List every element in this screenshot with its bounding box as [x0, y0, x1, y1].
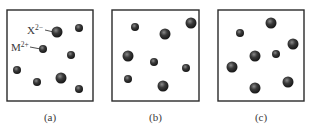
- large-ion: [250, 83, 261, 94]
- large-ion: [266, 18, 277, 29]
- small-ion: [124, 75, 132, 83]
- large-ion: [123, 51, 134, 62]
- panel-caption: (a): [44, 111, 57, 124]
- large-ion: [227, 62, 238, 73]
- panel-caption: (b): [149, 111, 162, 124]
- panel-caption: (c): [255, 111, 268, 124]
- large-ion: [250, 51, 261, 62]
- large-ion: [283, 77, 294, 88]
- small-ion: [67, 51, 75, 59]
- small-ion: [13, 66, 21, 74]
- small-ion: [272, 50, 280, 58]
- large-ion: [160, 29, 171, 40]
- small-ion: [150, 58, 158, 66]
- large-ion: [52, 27, 63, 38]
- large-ion: [186, 18, 197, 29]
- small-ion: [75, 85, 83, 93]
- small-ion: [131, 23, 139, 31]
- large-ion: [158, 81, 169, 92]
- small-ion: [182, 64, 190, 72]
- large-ion: [288, 39, 299, 50]
- panel-c: (c): [218, 10, 304, 124]
- small-ion: [39, 45, 47, 53]
- ionic-solution-diagram: X2−M2+(a)(b)(c): [0, 0, 309, 133]
- large-ion: [56, 73, 67, 84]
- small-ion: [33, 78, 41, 86]
- small-ion: [75, 24, 83, 32]
- container-box: [218, 10, 304, 101]
- panel-a: X2−M2+(a): [7, 10, 93, 124]
- panel-b: (b): [112, 10, 199, 124]
- small-ion: [236, 29, 244, 37]
